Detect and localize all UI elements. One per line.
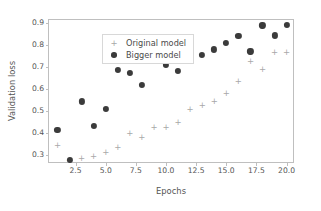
data-point [247, 58, 254, 65]
data-point [54, 142, 61, 149]
x-tick-label: 20.0 [278, 167, 295, 175]
data-point [271, 32, 277, 38]
data-point [199, 52, 205, 58]
data-point [162, 124, 169, 131]
y-tick-label: 0.6 [32, 85, 44, 93]
data-point [283, 22, 289, 28]
data-point [150, 124, 157, 131]
x-tick [256, 162, 257, 166]
x-tick-label: 12.5 [188, 167, 205, 175]
legend-item-original-model[interactable]: +Original model [108, 38, 186, 48]
plot-area: 0.30.40.50.60.70.80.9 2.55.07.510.012.51… [48, 19, 294, 163]
data-point [90, 153, 97, 160]
y-tick-label: 0.8 [32, 41, 44, 49]
data-point [78, 98, 84, 104]
data-point [235, 77, 242, 84]
data-point [259, 22, 265, 28]
y-tick [46, 45, 50, 46]
y-tick [46, 23, 50, 24]
x-tick-label: 10.0 [158, 167, 175, 175]
x-tick [76, 162, 77, 166]
data-point [138, 134, 145, 141]
y-tick-label: 0.4 [32, 129, 44, 137]
x-tick [166, 162, 167, 166]
data-point [115, 67, 121, 73]
data-point [259, 65, 266, 72]
data-point [247, 48, 253, 54]
y-tick-label: 0.5 [32, 107, 44, 115]
data-point [211, 98, 218, 105]
data-point [102, 149, 109, 156]
data-point [223, 40, 229, 46]
x-tick [136, 162, 137, 166]
data-point [103, 106, 109, 112]
y-tick [46, 89, 50, 90]
legend-item-bigger-model[interactable]: Bigger model [108, 50, 186, 60]
x-tick [106, 162, 107, 166]
y-tick [46, 111, 50, 112]
legend-item-label: Original model [126, 39, 186, 47]
y-tick-label: 0.7 [32, 63, 44, 71]
legend-item-label: Bigger model [126, 51, 181, 59]
data-point [126, 129, 133, 136]
x-tick-label: 2.5 [69, 167, 81, 175]
y-tick [46, 133, 50, 134]
circle-marker-icon [108, 52, 120, 58]
x-tick-label: 7.5 [130, 167, 142, 175]
data-point [199, 101, 206, 108]
data-point [175, 118, 182, 125]
y-tick-label: 0.3 [32, 151, 44, 159]
plus-marker-icon: + [108, 39, 120, 48]
y-tick [46, 67, 50, 68]
data-point [91, 123, 97, 129]
data-point [175, 68, 181, 74]
x-tick [287, 162, 288, 166]
data-point [78, 154, 85, 161]
y-axis-label: Validation loss [6, 19, 18, 163]
x-tick-label: 17.5 [248, 167, 265, 175]
y-axis-label-text: Validation loss [7, 61, 17, 121]
x-tick-label: 5.0 [100, 167, 112, 175]
data-point [187, 105, 194, 112]
y-tick-label: 0.9 [32, 19, 44, 27]
data-point [127, 70, 133, 76]
data-point [139, 82, 145, 88]
x-tick [196, 162, 197, 166]
data-point [114, 144, 121, 151]
data-point [223, 90, 230, 97]
data-point [235, 33, 241, 39]
figure: Validation loss Epochs 0.30.40.50.60.70.… [0, 0, 321, 211]
legend: +Original modelBigger model [102, 34, 194, 64]
x-axis-label: Epochs [48, 186, 294, 196]
data-point [283, 48, 290, 55]
data-point [211, 46, 217, 52]
x-tick-label: 15.0 [218, 167, 235, 175]
data-point [54, 126, 60, 132]
x-tick [226, 162, 227, 166]
y-tick [46, 155, 50, 156]
data-point [271, 48, 278, 55]
